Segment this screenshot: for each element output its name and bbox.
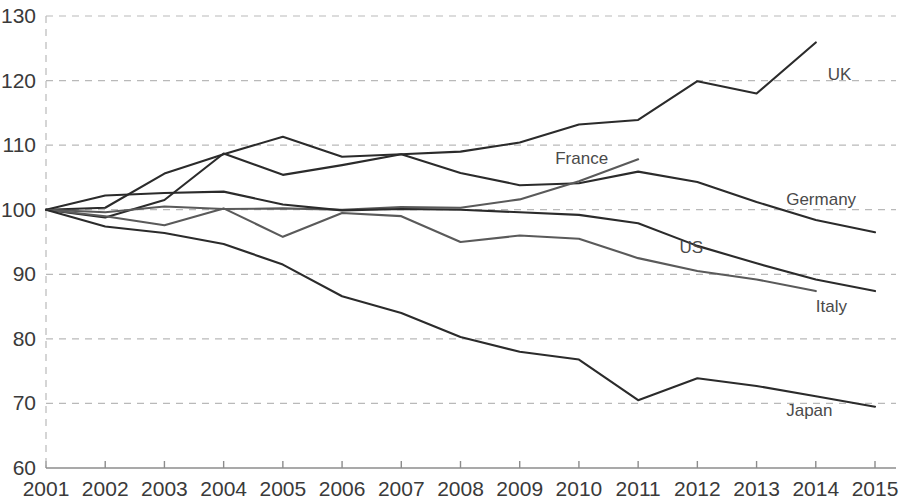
series-label-germany: Germany: [786, 191, 856, 208]
series-line-japan: [46, 210, 875, 407]
y-tick-label: 60: [13, 457, 36, 478]
x-axis-ticks: [46, 461, 875, 468]
series-label-japan: Japan: [786, 402, 832, 419]
series-lines: [46, 42, 875, 406]
x-tick-label: 2015: [840, 478, 903, 499]
y-tick-label: 70: [13, 392, 36, 413]
y-tick-label: 80: [13, 328, 36, 349]
y-tick-label: 130: [1, 5, 36, 26]
y-tick-label: 100: [1, 199, 36, 220]
series-line-france: [46, 159, 638, 212]
series-label-uk: UK: [828, 66, 852, 83]
y-tick-label: 110: [3, 134, 36, 155]
series-label-france: France: [555, 150, 608, 167]
y-tick-label: 120: [1, 70, 36, 91]
y-tick-label: 90: [13, 263, 36, 284]
series-label-italy: Italy: [816, 298, 847, 315]
series-line-uk: [46, 42, 816, 209]
series-label-us: US: [680, 239, 704, 256]
